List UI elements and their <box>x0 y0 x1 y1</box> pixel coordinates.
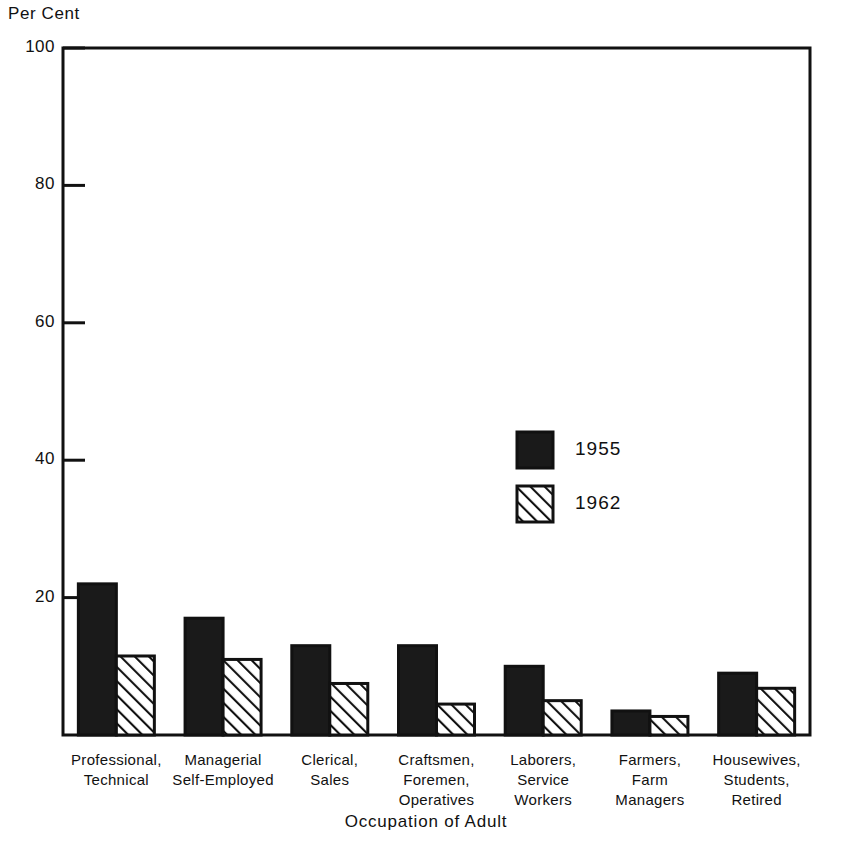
plot-area <box>0 0 852 846</box>
legend-label: 1955 <box>575 438 621 460</box>
bar-1955-5 <box>612 711 650 735</box>
bar-1962-0 <box>116 656 154 735</box>
bar-1955-2 <box>292 646 330 735</box>
bar-1962-2 <box>330 683 368 735</box>
bar-1955-6 <box>719 673 757 735</box>
x-axis-title: Occupation of Adult <box>0 812 852 832</box>
x-category-label-line: Housewives, <box>680 750 833 770</box>
axes-frame <box>63 48 810 735</box>
bar-1962-1 <box>223 659 261 735</box>
legend-swatches <box>517 432 553 522</box>
bar-1962-3 <box>437 704 475 735</box>
bar-1962-4 <box>543 701 581 735</box>
chart-figure: Per Cent 20406080100 Professional,Techni… <box>0 0 852 846</box>
y-axis-ticks <box>63 48 85 598</box>
bar-1955-0 <box>78 584 116 735</box>
legend-label: 1962 <box>575 492 621 514</box>
bar-1962-5 <box>650 716 688 735</box>
y-tick-label: 40 <box>3 449 55 469</box>
y-tick-label: 20 <box>3 587 55 607</box>
x-category-label: Housewives,Students,Retired <box>680 750 833 810</box>
bar-1955-3 <box>399 646 437 735</box>
bar-1962-6 <box>757 688 795 735</box>
legend-swatch-1962 <box>517 486 553 522</box>
bar-1955-4 <box>505 666 543 735</box>
bar-1955-1 <box>185 618 223 735</box>
y-tick-label: 80 <box>3 174 55 194</box>
y-tick-label: 100 <box>3 37 55 57</box>
legend-swatch-1955 <box>517 432 553 468</box>
x-category-label-line: Students, <box>680 770 833 790</box>
bars-group <box>78 584 794 735</box>
x-category-label-line: Retired <box>680 790 833 810</box>
y-tick-label: 60 <box>3 312 55 332</box>
